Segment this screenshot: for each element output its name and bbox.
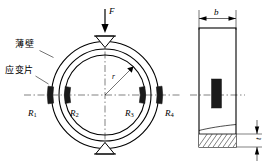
gauge-label-r1-sub: 1 [34,111,37,118]
engineering-diagram: F r 薄壁 应变片 R1 R2 R3 R4 b t [0,0,276,165]
side-view-strain-gauge [212,79,222,108]
thickness-dimension-line [255,120,259,161]
radius-dimension-arrow [105,67,134,96]
thickness-extension-lines [236,134,262,147]
thickness-label: t [255,138,263,140]
strain-gauge-label: 应变片 [5,66,34,75]
thin-wall-label: 薄壁 [15,40,34,49]
force-arrow [101,9,108,33]
force-label: F [109,7,115,16]
gauge-label-r2: R2 [70,103,79,119]
strain-gauge-r1 [47,86,53,104]
strain-gauge-r2 [64,87,70,104]
gauge-label-r2-sub: 2 [76,111,79,118]
width-label: b [214,8,219,17]
strain-gauge-r4 [156,86,162,104]
strain-gauge-r3 [139,87,145,104]
thin-wall-leader-line [40,51,54,58]
gauge-label-r1: R1 [28,103,37,119]
radius-label: r [112,73,115,81]
gauge-label-r4-sub: 4 [171,111,174,118]
gauge-label-r3: R3 [125,103,134,119]
gauge-label-r4: R4 [165,103,174,119]
strain-gauge-leader-line [36,76,49,84]
diagram-canvas [0,0,276,165]
gauge-label-r3-sub: 3 [131,111,134,118]
